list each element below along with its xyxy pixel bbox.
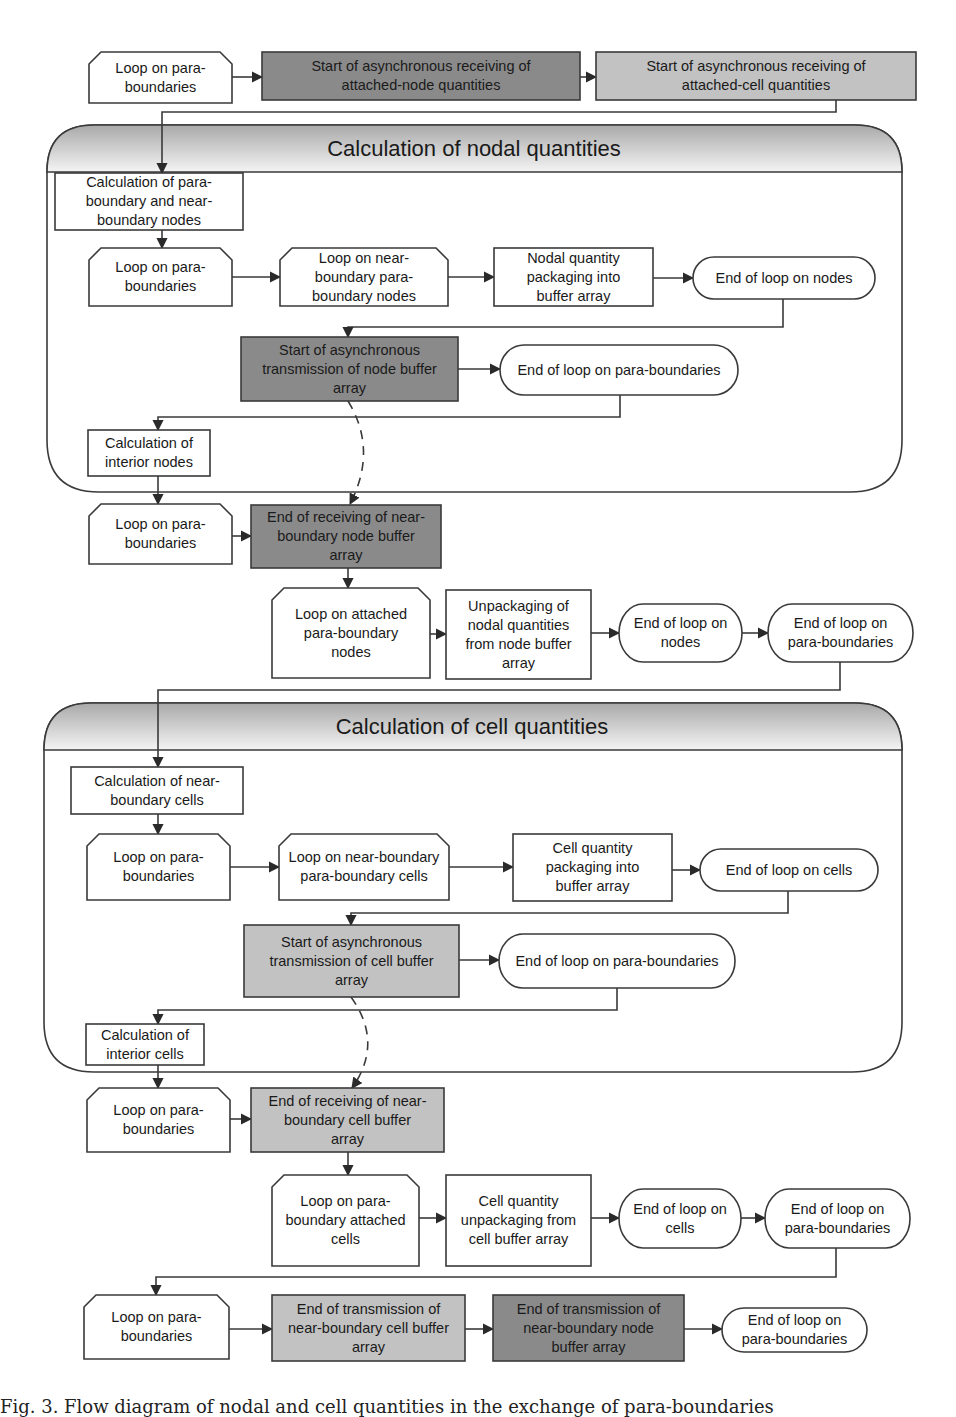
node-label-line: nodes bbox=[661, 634, 701, 650]
node-rect-n27[interactable]: End of receiving of near-boundary cell b… bbox=[251, 1088, 444, 1152]
node-loop-n12[interactable]: Loop on para-boundaries bbox=[89, 504, 232, 564]
node-pill-n16[interactable]: End of loop onnodes bbox=[619, 604, 742, 662]
node-label-line: array bbox=[335, 972, 369, 988]
node-label-line: attached-cell quantities bbox=[682, 77, 830, 93]
node-label-line: boundary attached bbox=[285, 1212, 405, 1228]
node-label-line: boundary node buffer bbox=[277, 528, 415, 544]
terminator-shape bbox=[768, 604, 913, 662]
node-label-line: Unpackaging of bbox=[468, 598, 570, 614]
node-label-line: End of loop on bbox=[791, 1201, 885, 1217]
loop-shape bbox=[279, 834, 449, 900]
node-pill-n24[interactable]: End of loop on para-boundaries bbox=[499, 934, 735, 988]
node-label-line: End of loop on nodes bbox=[715, 270, 852, 286]
node-rect-n3[interactable]: Start of asynchronous receiving ofattach… bbox=[596, 52, 916, 100]
terminator-shape bbox=[619, 1189, 741, 1248]
node-label-line: cell buffer array bbox=[469, 1231, 569, 1247]
loop-shape bbox=[87, 1088, 230, 1152]
node-label-line: boundaries bbox=[125, 278, 197, 294]
node-loop-n5[interactable]: Loop on para-boundaries bbox=[89, 248, 232, 306]
node-pill-n31[interactable]: End of loop onpara-boundaries bbox=[765, 1189, 910, 1248]
node-label-line: Calculation of near- bbox=[94, 773, 220, 789]
node-pill-n35[interactable]: End of loop onpara-boundaries bbox=[722, 1308, 867, 1352]
node-rect-n21[interactable]: Cell quantitypackaging intobuffer array bbox=[513, 834, 672, 901]
node-label-line: Cell quantity bbox=[479, 1193, 560, 1209]
container-title: Calculation of nodal quantities bbox=[327, 136, 621, 161]
node-loop-n32[interactable]: Loop on para-boundaries bbox=[84, 1295, 229, 1359]
loop-shape bbox=[89, 504, 232, 564]
node-label-line: Loop on attached bbox=[295, 606, 407, 622]
node-pill-n17[interactable]: End of loop onpara-boundaries bbox=[768, 604, 913, 662]
node-pill-n30[interactable]: End of loop oncells bbox=[619, 1189, 741, 1248]
node-loop-n1[interactable]: Loop on para-boundaries bbox=[89, 52, 232, 103]
node-rect-n18[interactable]: Calculation of near-boundary cells bbox=[71, 767, 243, 814]
node-label-line: cells bbox=[665, 1220, 694, 1236]
node-pill-n8[interactable]: End of loop on nodes bbox=[693, 257, 875, 299]
node-loop-n6[interactable]: Loop on near-boundary para-boundary node… bbox=[280, 248, 448, 306]
node-rect-n4[interactable]: Calculation of para-boundary and near-bo… bbox=[55, 173, 243, 230]
node-rect-n25[interactable]: Calculation ofinterior cells bbox=[86, 1024, 204, 1065]
node-rect-n11[interactable]: Calculation ofinterior nodes bbox=[88, 430, 210, 476]
container-title: Calculation of cell quantities bbox=[336, 714, 609, 739]
node-loop-n19[interactable]: Loop on para-boundaries bbox=[87, 834, 230, 900]
node-label-line: packaging into bbox=[527, 269, 621, 285]
node-rect-n2[interactable]: Start of asynchronous receiving ofattach… bbox=[262, 52, 580, 100]
node-pill-n10[interactable]: End of loop on para-boundaries bbox=[500, 345, 738, 395]
node-label-line: Calculation of bbox=[105, 435, 194, 451]
node-label-line: End of receiving of near- bbox=[269, 1093, 427, 1109]
node-label-line: boundaries bbox=[121, 1328, 193, 1344]
node-label-line: array bbox=[352, 1339, 386, 1355]
node-rect-n7[interactable]: Nodal quantitypackaging intobuffer array bbox=[494, 248, 653, 306]
node-label-line: array bbox=[329, 547, 363, 563]
node-label-line: Loop on para- bbox=[115, 60, 205, 76]
node-loop-n14[interactable]: Loop on attachedpara-boundarynodes bbox=[272, 588, 430, 678]
node-label-line: End of loop on para-boundaries bbox=[515, 953, 718, 969]
node-label-line: Start of asynchronous receiving of bbox=[646, 58, 866, 74]
node-rect-n9[interactable]: Start of asynchronoustransmission of nod… bbox=[241, 337, 458, 401]
node-pill-n22[interactable]: End of loop on cells bbox=[700, 849, 878, 891]
node-label-line: Loop on para- bbox=[113, 1102, 203, 1118]
node-label-line: boundary nodes bbox=[97, 212, 201, 228]
node-label-line: boundary cell buffer bbox=[284, 1112, 411, 1128]
node-label-line: para-boundary cells bbox=[300, 868, 427, 884]
node-label-line: Cell quantity bbox=[553, 840, 634, 856]
node-label-line: End of loop on bbox=[794, 615, 888, 631]
node-label-line: para-boundaries bbox=[788, 634, 894, 650]
node-rect-n15[interactable]: Unpackaging ofnodal quantitiesfrom node … bbox=[446, 590, 591, 679]
node-label-line: Calculation of para- bbox=[86, 174, 212, 190]
node-label-line: transmission of cell buffer bbox=[269, 953, 433, 969]
node-label-line: End of loop on bbox=[633, 1201, 727, 1217]
node-label-line: cells bbox=[331, 1231, 360, 1247]
node-label-line: Loop on near-boundary bbox=[289, 849, 441, 865]
node-label-line: End of loop on para-boundaries bbox=[517, 362, 720, 378]
node-label-line: Start of asynchronous bbox=[279, 342, 420, 358]
node-label-line: End of loop on bbox=[748, 1312, 842, 1328]
node-label-line: boundaries bbox=[123, 868, 195, 884]
node-loop-n28[interactable]: Loop on para-boundary attachedcells bbox=[272, 1175, 419, 1266]
terminator-shape bbox=[765, 1189, 910, 1248]
node-label-line: End of loop on bbox=[634, 615, 728, 631]
node-label-line: near-boundary node bbox=[523, 1320, 654, 1336]
node-label-line: array bbox=[333, 380, 367, 396]
node-loop-n20[interactable]: Loop on near-boundarypara-boundary cells bbox=[279, 834, 449, 900]
node-label-line: Loop on para- bbox=[113, 849, 203, 865]
node-rect-n33[interactable]: End of transmission ofnear-boundary cell… bbox=[272, 1295, 465, 1361]
node-loop-n26[interactable]: Loop on para-boundaries bbox=[87, 1088, 230, 1152]
node-label-line: packaging into bbox=[546, 859, 640, 875]
loop-shape bbox=[84, 1295, 229, 1359]
node-label-line: Calculation of bbox=[101, 1027, 190, 1043]
node-rect-n29[interactable]: Cell quantityunpackaging fromcell buffer… bbox=[446, 1175, 591, 1266]
node-rect-n23[interactable]: Start of asynchronoustransmission of cel… bbox=[244, 925, 459, 997]
node-label-line: boundaries bbox=[123, 1121, 195, 1137]
node-label-line: interior cells bbox=[106, 1046, 183, 1062]
node-label-line: Loop on near- bbox=[319, 250, 409, 266]
node-label-line: array bbox=[502, 655, 536, 671]
loop-shape bbox=[89, 248, 232, 306]
node-label-line: boundary cells bbox=[110, 792, 204, 808]
node-label-line: attached-node quantities bbox=[342, 77, 501, 93]
node-label-line: Loop on para- bbox=[111, 1309, 201, 1325]
node-rect-n13[interactable]: End of receiving of near-boundary node b… bbox=[251, 505, 441, 568]
node-rect-n34[interactable]: End of transmission ofnear-boundary node… bbox=[493, 1295, 684, 1361]
node-label-line: array bbox=[331, 1131, 365, 1147]
node-label-line: End of receiving of near- bbox=[267, 509, 425, 525]
node-label-line: Loop on para- bbox=[300, 1193, 390, 1209]
